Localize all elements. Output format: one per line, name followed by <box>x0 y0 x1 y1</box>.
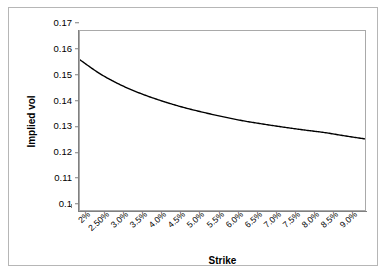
chart-outer-frame: Implied vol 0.170.160.150.140.130.120.11… <box>8 7 378 266</box>
y-axis-tick-label: 0.17 <box>54 18 76 28</box>
x-axis-tick-mark <box>71 204 72 208</box>
plot-area <box>79 30 366 211</box>
y-axis-title-label: Implied vol <box>26 95 37 147</box>
y-axis-tick-label: 0.14 <box>54 96 76 106</box>
y-axis-tick-label: 0.11 <box>54 173 75 183</box>
y-axis-tick-mark <box>75 23 79 24</box>
x-axis-title: Strike <box>79 255 366 266</box>
y-axis-title: Implied vol <box>24 56 38 186</box>
y-axis-tick-label: 0.12 <box>54 148 76 158</box>
y-axis-tick-label: 0.13 <box>54 122 76 132</box>
chart-figure: Implied vol 0.170.160.150.140.130.120.11… <box>0 0 388 276</box>
y-axis-tick-label: 0.1 <box>59 199 75 209</box>
y-axis-tick-label: 0.15 <box>54 70 76 80</box>
y-axis-tick-label: 0.16 <box>54 44 76 54</box>
curve-polyline <box>80 60 365 139</box>
implied-vol-curve <box>80 31 365 210</box>
